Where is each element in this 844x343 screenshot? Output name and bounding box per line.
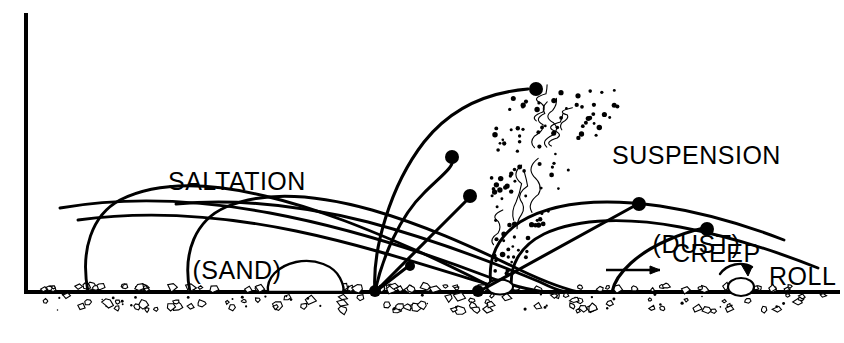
sand-speck — [121, 300, 124, 303]
ejection-trajectory-3-grain-dot — [463, 189, 477, 203]
sand-grain — [135, 284, 144, 291]
dust-particle — [608, 116, 611, 119]
sand-speck — [421, 294, 424, 297]
sand-grain — [43, 299, 48, 304]
dust-particle — [491, 194, 494, 197]
sand-speck — [57, 309, 59, 311]
sand-grain — [93, 286, 99, 291]
label-creep: CREEP — [672, 239, 761, 269]
dust-particle — [536, 222, 541, 227]
dust-particle — [540, 212, 543, 215]
sand-speck — [122, 303, 124, 305]
sand-grain — [487, 301, 495, 307]
dust-particle — [575, 93, 580, 98]
dust-particle — [552, 162, 555, 165]
sand-grain — [78, 303, 85, 309]
sand-grain — [534, 303, 542, 309]
dust-particle — [507, 223, 512, 228]
dust-particle — [567, 168, 570, 171]
dust-particle — [499, 142, 502, 145]
dust-particle — [510, 128, 513, 131]
dust-particle — [592, 103, 596, 107]
dust-particle — [524, 255, 528, 259]
dust-particle — [551, 98, 556, 103]
dust-particle — [518, 134, 521, 137]
dust-particle — [551, 165, 554, 168]
sand-speck — [782, 302, 785, 305]
dust-particle — [501, 232, 506, 237]
dust-particle — [554, 153, 557, 156]
dust-particle — [500, 197, 503, 200]
sand-grain — [564, 293, 569, 297]
dust-particle — [525, 250, 528, 253]
dust-particle — [513, 168, 517, 172]
sand-speck — [58, 297, 60, 299]
dust-squiggle — [544, 98, 556, 147]
label-roll: ROLL — [769, 262, 836, 292]
dust-particle — [512, 255, 515, 258]
dust-particle — [505, 184, 510, 189]
dust-particle — [588, 89, 592, 93]
dust-particle — [511, 245, 514, 248]
sand-grain — [420, 283, 430, 291]
ejection-trajectory-1-grain-dot — [529, 82, 543, 96]
sand-grain — [337, 300, 348, 306]
dust-particle — [521, 105, 524, 108]
sand-grain — [570, 303, 575, 309]
dust-particle — [576, 136, 580, 140]
dust-particle — [506, 247, 510, 251]
dust-particle — [581, 124, 585, 128]
dust-particle — [509, 189, 513, 193]
sand-grain — [338, 306, 347, 314]
sand-speck — [134, 296, 137, 299]
sand-speck — [112, 296, 115, 299]
sand-grain — [154, 307, 158, 311]
sand-speck — [319, 305, 321, 307]
sand-grain — [102, 299, 114, 308]
dust-squiggle — [530, 158, 540, 212]
impact-point-2 — [472, 285, 484, 297]
dust-particle — [575, 103, 579, 107]
dust-particle — [597, 125, 602, 130]
sand-grain — [471, 307, 480, 313]
sand-grain — [589, 303, 597, 312]
dust-source-grain — [487, 280, 513, 295]
dust-particle — [513, 235, 516, 238]
dust-particle — [511, 96, 516, 101]
sand-speck — [398, 309, 400, 311]
sand-grain — [578, 285, 583, 289]
label-saltation-main: SALTATION — [168, 167, 306, 197]
sand-speck — [606, 307, 608, 309]
dust-particle — [593, 122, 596, 125]
dust-particle — [502, 141, 506, 145]
sand-grain — [145, 308, 149, 313]
dust-particle — [496, 205, 499, 208]
dust-particle — [541, 222, 546, 227]
dust-particle — [521, 128, 524, 131]
label-suspension-main: SUSPENSION — [612, 141, 781, 171]
sand-grain — [122, 284, 127, 289]
sand-grain — [445, 294, 452, 302]
dust-particle — [591, 112, 595, 116]
dust-particle — [579, 131, 584, 136]
dust-particle — [493, 269, 497, 273]
sand-grain — [85, 300, 92, 305]
dust-particle — [536, 219, 539, 222]
label-suspension: SUSPENSION (DUST) — [612, 82, 781, 318]
sand-grain — [357, 295, 364, 301]
dust-particle — [509, 171, 513, 175]
dust-particle — [526, 236, 531, 241]
sand-speck — [130, 304, 132, 306]
impact-point-1 — [369, 285, 381, 297]
sand-grain — [75, 284, 83, 289]
dust-particle — [549, 173, 554, 178]
sand-grain — [820, 294, 826, 298]
sand-grain — [570, 297, 580, 302]
dust-particle — [584, 121, 588, 125]
sand-speck — [62, 294, 64, 296]
dust-particle — [516, 150, 519, 153]
sand-speck — [101, 299, 103, 301]
sand-grain — [407, 285, 415, 293]
dust-particle — [496, 148, 500, 152]
dust-particle — [534, 107, 539, 112]
